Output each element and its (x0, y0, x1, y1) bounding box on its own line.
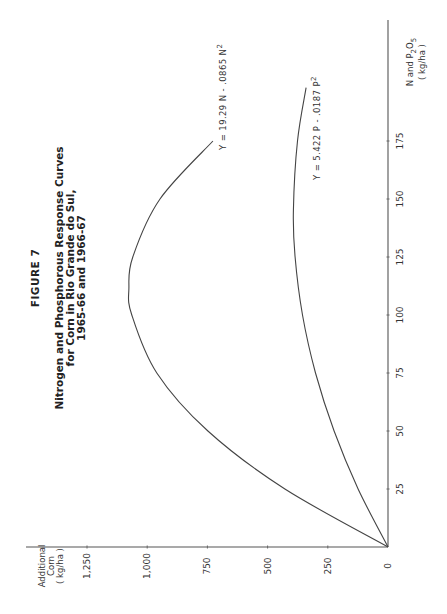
y-axis-ticks: 02505007501,0001,250 (82, 546, 393, 579)
y-tick-label: 0 (383, 563, 393, 569)
x-axis-ticks: 255075100125150175 (387, 132, 406, 494)
chart-canvas: 02505007501,0001,250 255075100125150175 … (0, 0, 447, 614)
nitrogen-equation: Y = 19.29 N - .0865 N2 (216, 44, 228, 151)
x-axis-label-line-2: ( kg/ha ) (417, 44, 427, 80)
x-tick-label: 150 (395, 190, 405, 207)
x-tick-label: 175 (395, 132, 405, 149)
chart-title-line-3: 1965-66 and 1966-67 (75, 215, 87, 341)
y-tick-label: 500 (263, 557, 273, 574)
y-tick-label: 1,000 (142, 553, 152, 579)
y-tick-label: 250 (323, 557, 333, 574)
y-tick-label: 1,250 (82, 553, 92, 579)
phosphorus-equation: Y = 5.422 P - .0187 P2 (310, 76, 322, 181)
x-tick-label: 125 (395, 248, 405, 265)
phosphorus-response-curve (293, 88, 388, 547)
y-axis-label-line-3: ( kg/ha ) (55, 548, 65, 584)
x-tick-label: 50 (395, 425, 405, 437)
y-tick-label: 750 (202, 557, 212, 574)
x-tick-label: 100 (395, 306, 405, 323)
figure-label: FIGURE 7 (29, 249, 41, 307)
x-tick-label: 75 (395, 367, 405, 378)
nitrogen-response-curve (128, 141, 388, 547)
x-tick-label: 25 (395, 483, 405, 494)
